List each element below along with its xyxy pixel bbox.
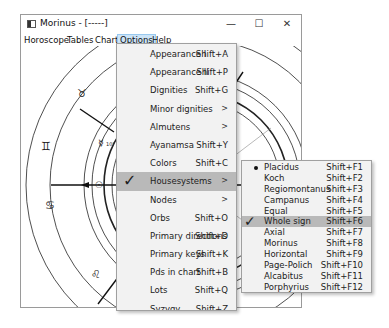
- options-menu: Appearance IShift+A Appearance IIShift+P…: [116, 43, 237, 311]
- menu-item-label: Porphyrius: [264, 282, 309, 293]
- mercury-glyph: ☿: [98, 138, 104, 148]
- menu-item-shortcut: Shift+Y: [196, 136, 228, 154]
- submenu-item-horizontal[interactable]: HorizontalShift+F9: [242, 249, 371, 260]
- menu-item-shortcut: Shift+C: [196, 154, 228, 172]
- menu-item-orbs[interactable]: OrbsShift+O: [117, 209, 236, 227]
- menu-item-shortcut: Shift+F9: [326, 249, 363, 260]
- menu-item-label: Morinus: [264, 238, 298, 249]
- menu-item-label: Housesystems: [150, 172, 212, 190]
- menu-item-label: Ayanamsa: [150, 136, 194, 154]
- menu-item-minor-dignities[interactable]: Minor dignities>: [117, 100, 236, 118]
- submenu-item-axial[interactable]: AxialShift+F7: [242, 227, 371, 238]
- menu-item-shortcut: Shift+K: [196, 245, 228, 263]
- submenu-item-campanus[interactable]: CampanusShift+F4: [242, 195, 371, 206]
- submenu-item-equal[interactable]: EqualShift+F5: [242, 206, 371, 217]
- submenu-item-page-polich[interactable]: Page-PolichShift+F10: [242, 260, 371, 271]
- submenu-item-placidus[interactable]: PlacidusShift+F1: [242, 162, 371, 173]
- menu-item-appearance-1[interactable]: Appearance IShift+A: [117, 45, 236, 63]
- menu-item-shortcut: Shift+F7: [326, 227, 363, 238]
- menu-item-label: Campanus: [264, 195, 309, 206]
- menu-item-label: Dignities: [150, 81, 187, 99]
- maximize-button[interactable]: ☐: [245, 17, 273, 31]
- menu-item-label: Whole sign: [264, 216, 311, 227]
- checkmark-icon: ✓: [123, 172, 136, 190]
- menu-item-label: Horizontal: [264, 249, 307, 260]
- leo-glyph: ♌: [91, 268, 101, 281]
- menu-item-label: Equal: [264, 206, 288, 217]
- taurus-glyph: ♉: [77, 87, 87, 100]
- menu-item-shortcut: Shift+Z: [196, 300, 228, 311]
- menu-item-shortcut: Shift+A: [196, 45, 228, 63]
- menu-item-lots[interactable]: LotsShift+Q: [117, 281, 236, 299]
- menu-item-shortcut: Shift+F4: [326, 195, 363, 206]
- menu-item-label: Regiomontanus: [264, 184, 330, 195]
- menu-item-pds-in-chart[interactable]: Pds in chartShift+B: [117, 263, 236, 281]
- menu-item-label: Minor dignities: [150, 100, 213, 118]
- menu-item-shortcut: Shift+Q: [195, 281, 228, 299]
- menu-item-housesystems[interactable]: ✓Housesystems>: [117, 172, 236, 190]
- menu-item-primary-keys[interactable]: Primary keysShift+K: [117, 245, 236, 263]
- chevron-right-icon: >: [221, 100, 228, 118]
- menu-item-label: Placidus: [264, 162, 299, 173]
- submenu-item-regiomontanus[interactable]: RegiomontanusShift+F3: [242, 184, 371, 195]
- menu-item-shortcut: Shift+F2: [326, 173, 363, 184]
- menu-item-dignities[interactable]: DignitiesShift+G: [117, 81, 236, 99]
- menu-item-label: Page-Polich: [264, 260, 312, 271]
- submenu-item-whole-sign[interactable]: ✓Whole signShift+F6: [242, 216, 371, 227]
- chevron-right-icon: >: [221, 191, 228, 209]
- menu-item-label: Nodes: [150, 191, 177, 209]
- menu-item-label: Lots: [150, 281, 168, 299]
- title-bar[interactable]: Morinus - [-----] — ☐ ✕: [21, 15, 301, 34]
- chevron-right-icon: >: [221, 172, 228, 190]
- menu-item-label: Almutens: [150, 118, 190, 136]
- menu-item-shortcut: Shift+F5: [326, 206, 363, 217]
- submenu-item-porphyrius[interactable]: PorphyriusShift+F12: [242, 282, 371, 293]
- menu-item-colors[interactable]: ColorsShift+C: [117, 154, 236, 172]
- menu-item-label: Koch: [264, 173, 284, 184]
- minimize-button[interactable]: —: [217, 17, 245, 31]
- menu-tables[interactable]: Tables: [65, 34, 95, 46]
- menu-item-label: Pds in chart: [150, 263, 200, 281]
- menu-item-shortcut: Shift+B: [196, 263, 228, 281]
- menu-item-label: Axial: [264, 227, 285, 238]
- close-button[interactable]: ✕: [273, 17, 301, 31]
- app-icon: [27, 20, 36, 28]
- menu-item-syzygy[interactable]: SyzygyShift+Z: [117, 300, 236, 311]
- menu-item-shortcut: Shift+F10: [321, 260, 363, 271]
- submenu-item-morinus[interactable]: MorinusShift+F8: [242, 238, 371, 249]
- housesystems-submenu: PlacidusShift+F1 KochShift+F2 Regiomonta…: [241, 160, 372, 293]
- submenu-item-koch[interactable]: KochShift+F2: [242, 173, 371, 184]
- checkmark-icon: ✓: [244, 216, 256, 227]
- menu-item-shortcut: Shift+O: [195, 209, 228, 227]
- menu-item-almutens[interactable]: Almutens>: [117, 118, 236, 136]
- menu-horoscope[interactable]: Horoscope: [22, 34, 71, 46]
- radio-bullet-icon: [254, 166, 258, 170]
- menu-item-primary-directions[interactable]: Primary directionsShift+D: [117, 227, 236, 245]
- menu-item-ayanamsa[interactable]: AyanamsaShift+Y: [117, 136, 236, 154]
- menu-item-label: Colors: [150, 154, 177, 172]
- menu-item-appearance-2[interactable]: Appearance IIShift+P: [117, 63, 236, 81]
- menu-item-shortcut: Shift+F11: [321, 271, 363, 282]
- menu-item-shortcut: Shift+F1: [326, 162, 363, 173]
- menu-item-shortcut: Shift+F8: [326, 238, 363, 249]
- menu-item-shortcut: Shift+F6: [326, 216, 363, 227]
- menu-item-shortcut: Shift+G: [195, 81, 228, 99]
- menu-item-nodes[interactable]: Nodes>: [117, 191, 236, 209]
- menu-item-shortcut: Shift+D: [195, 227, 228, 245]
- menu-item-label: Orbs: [150, 209, 170, 227]
- menu-item-shortcut: Shift+F12: [321, 282, 363, 293]
- submenu-item-alcabitus[interactable]: AlcabitusShift+F11: [242, 271, 371, 282]
- gemini-glyph: ♊: [41, 140, 51, 153]
- sun-glyph: ☉: [95, 180, 103, 190]
- menu-item-label: Syzygy: [150, 300, 180, 311]
- cancer-glyph: ♋: [45, 199, 55, 212]
- window-title: Morinus - [-----]: [40, 18, 108, 28]
- menu-item-label: Alcabitus: [264, 271, 303, 282]
- menu-item-shortcut: Shift+P: [196, 63, 228, 81]
- degree-label: 10°: [106, 141, 115, 147]
- menu-item-shortcut: Shift+F3: [326, 184, 363, 195]
- chevron-right-icon: >: [221, 118, 228, 136]
